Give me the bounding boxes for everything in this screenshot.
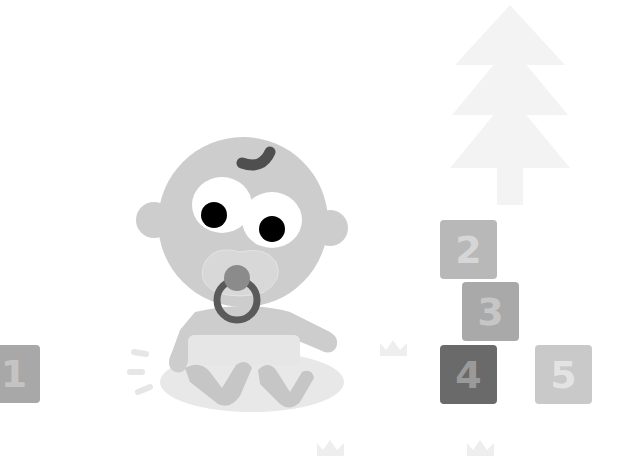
pacifier-nub [224,265,250,291]
block-2[interactable]: 2 [440,220,497,279]
block-5[interactable]: 5 [535,345,592,404]
scene-illustration [0,0,625,460]
block-2-label: 2 [455,228,481,272]
tree-icon [450,5,570,205]
block-3[interactable]: 3 [462,282,519,341]
block-4[interactable]: 4 [440,345,497,404]
motion-lines-icon [130,352,150,392]
block-1[interactable]: 1 [0,345,40,403]
block-1-label: 1 [1,352,27,396]
block-3-label: 3 [477,290,503,334]
block-5-label: 5 [550,353,576,397]
block-4-label: 4 [455,353,481,397]
